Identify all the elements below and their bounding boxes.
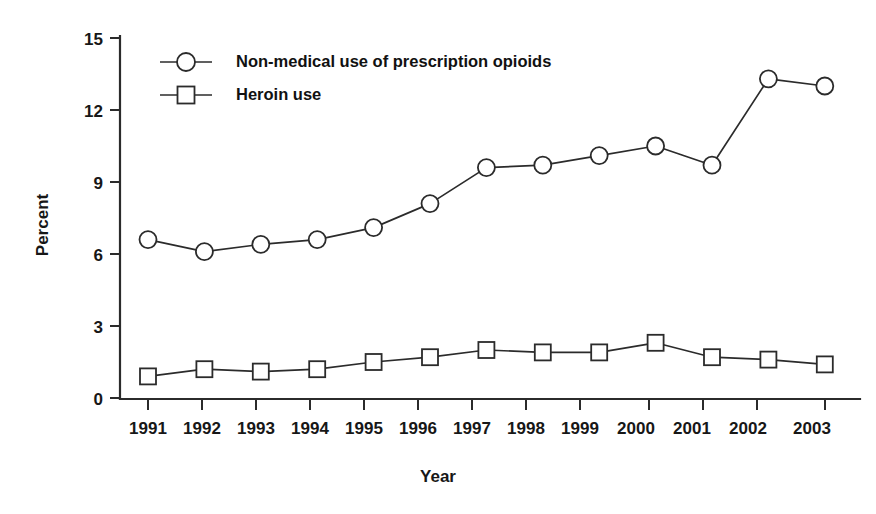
data-point-marker [478, 342, 494, 358]
data-point-marker [422, 195, 439, 212]
y-tick-label-12: 12 [84, 102, 103, 121]
legend-label: Heroin use [236, 85, 321, 103]
x-tick-label-2002: 2002 [729, 419, 767, 438]
y-tick-label-15: 15 [84, 30, 103, 49]
y-tick-label-6: 6 [94, 246, 103, 265]
y-axis-title: Percent [33, 193, 52, 256]
x-tick-label-2003: 2003 [793, 419, 831, 438]
x-tick-label-2001: 2001 [673, 419, 711, 438]
data-point-marker [478, 159, 495, 176]
data-point-marker [591, 147, 608, 164]
y-axis-ticks [110, 38, 120, 398]
data-point-marker [422, 349, 438, 365]
x-axis-title: Year [420, 467, 456, 486]
data-point-marker [309, 361, 325, 377]
data-point-marker [704, 349, 720, 365]
data-point-marker [648, 335, 664, 351]
data-point-marker [140, 368, 156, 384]
x-tick-label-1998: 1998 [507, 419, 545, 438]
x-tick-label-1992: 1992 [183, 419, 221, 438]
y-tick-label-3: 3 [94, 318, 103, 337]
data-point-marker [704, 157, 721, 174]
legend-square-marker-icon [178, 87, 195, 104]
data-point-marker [760, 352, 776, 368]
data-point-marker [252, 236, 269, 253]
y-tick-label-0: 0 [94, 390, 103, 409]
x-tick-label-1993: 1993 [237, 419, 275, 438]
legend-entry: Non-medical use of prescription opioids [160, 52, 551, 71]
data-point-marker [534, 157, 551, 174]
plot-series-layer [140, 70, 834, 384]
x-tick-label-1999: 1999 [561, 419, 599, 438]
series-heroin [140, 335, 833, 385]
data-point-marker [196, 361, 212, 377]
data-point-marker [647, 138, 664, 155]
x-tick-label-1996: 1996 [399, 419, 437, 438]
y-tick-label-9: 9 [94, 174, 103, 193]
x-tick-label-1995: 1995 [345, 419, 383, 438]
x-tick-label-2000: 2000 [617, 419, 655, 438]
chart-canvas: 15 12 9 6 3 0 Percent 1991 1992 1993 199… [0, 0, 876, 514]
legend-label: Non-medical use of prescription opioids [236, 52, 551, 70]
x-axis-ticks [148, 399, 825, 410]
data-point-marker [196, 243, 213, 260]
data-point-marker [817, 356, 833, 372]
data-point-marker [366, 354, 382, 370]
data-point-marker [140, 231, 157, 248]
data-point-marker [365, 219, 382, 236]
chart-legend: Non-medical use of prescription opioidsH… [160, 52, 551, 103]
data-point-marker [309, 231, 326, 248]
legend-entry: Heroin use [160, 85, 321, 103]
x-tick-label-1997: 1997 [453, 419, 491, 438]
data-point-marker [253, 364, 269, 380]
legend-circle-marker-icon [177, 53, 195, 71]
data-point-marker [816, 78, 833, 95]
data-point-marker [760, 70, 777, 87]
x-tick-label-1994: 1994 [291, 419, 329, 438]
line-chart: 15 12 9 6 3 0 Percent 1991 1992 1993 199… [0, 0, 876, 514]
data-point-marker [591, 344, 607, 360]
x-tick-label-1991: 1991 [129, 419, 167, 438]
data-point-marker [535, 344, 551, 360]
